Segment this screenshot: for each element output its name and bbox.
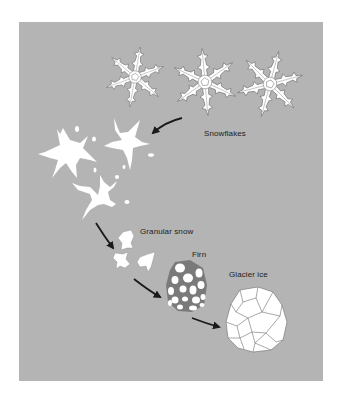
arrow-icon <box>134 279 160 297</box>
snowflake-1 <box>101 42 169 112</box>
firn-cluster <box>166 260 207 312</box>
degraded-flakes <box>38 118 154 220</box>
snowflake-2 <box>170 46 240 119</box>
label-glacier-ice: Glacier ice <box>229 270 268 279</box>
granular-snow-grains <box>113 230 155 272</box>
glacier-ice-block <box>226 287 287 352</box>
label-snowflakes: Snowflakes <box>204 129 246 138</box>
label-granular-snow: Granular snow <box>140 227 193 236</box>
label-firn: Firn <box>192 250 206 259</box>
arrow-icon <box>96 223 113 248</box>
arrow-icon <box>192 318 219 327</box>
arrow-icon <box>153 118 182 133</box>
diagram-art <box>0 0 343 395</box>
snowflake-3 <box>230 43 310 125</box>
